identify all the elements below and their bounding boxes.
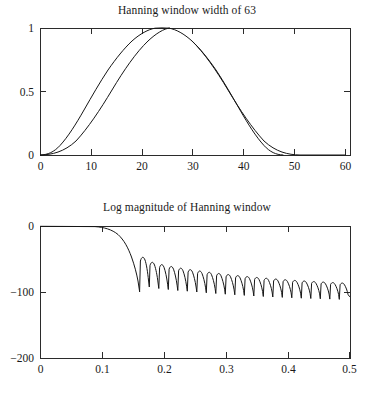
figure-canvas: Hanning window width of 63 <box>0 0 374 395</box>
xaxis-ticks-log-magnitude <box>41 352 350 358</box>
ytick-label-logmag-0: 0 <box>0 220 34 232</box>
data-curve-sidelobes <box>140 257 350 299</box>
xtick-label-hanning-60: 60 <box>340 160 352 172</box>
data-curve-hanning-window <box>41 28 284 155</box>
xtick-label-hanning-50: 50 <box>289 160 301 172</box>
data-curve-mainlobe <box>41 226 140 291</box>
xaxis-ticks-top-log-magnitude <box>103 226 289 232</box>
chart-panel-hanning-window: Hanning window width of 63 <box>0 0 374 195</box>
plot-box-log-magnitude <box>40 226 350 358</box>
data-curve-hanning-window-head <box>41 28 170 155</box>
xtick-label-hanning-30: 30 <box>187 160 199 172</box>
xtick-label-hanning-0: 0 <box>38 160 44 172</box>
ytick-label-logmag-minus200: −200 <box>0 352 34 364</box>
xaxis-ticks-top-hanning-window <box>91 28 294 34</box>
xtick-label-hanning-40: 40 <box>238 160 250 172</box>
ytick-label-hanning-0: 0 <box>4 149 34 161</box>
plot-area-log-magnitude <box>0 195 374 395</box>
plot-box-hanning-window <box>40 28 350 155</box>
xtick-label-logmag-0p5: 0.5 <box>342 363 356 375</box>
xtick-label-logmag-0p1: 0.1 <box>95 363 109 375</box>
xtick-label-logmag-0: 0 <box>38 363 44 375</box>
xtick-label-hanning-20: 20 <box>136 160 148 172</box>
ytick-label-hanning-0p5: 0.5 <box>4 86 34 98</box>
xaxis-ticks-hanning-window <box>41 149 346 155</box>
xtick-label-logmag-0p2: 0.2 <box>157 363 171 375</box>
xtick-label-logmag-0p3: 0.3 <box>219 363 233 375</box>
xtick-label-hanning-10: 10 <box>86 160 98 172</box>
ytick-label-logmag-minus100: −100 <box>0 286 34 298</box>
xtick-label-logmag-0p4: 0.4 <box>281 363 295 375</box>
ytick-label-hanning-1: 1 <box>4 22 34 34</box>
data-curve-hanning-window-tail <box>192 41 345 155</box>
chart-panel-log-magnitude: Log magnitude of Hanning window <box>0 195 374 395</box>
